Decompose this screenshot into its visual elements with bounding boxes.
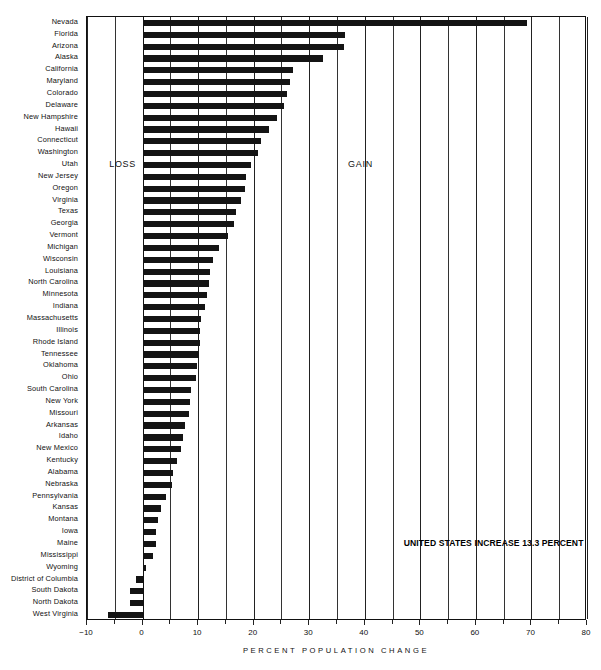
y-label-district-of-columbia: District of Columbia (11, 575, 78, 582)
y-label-ohio: Ohio (62, 373, 78, 380)
y-label-missouri: Missouri (49, 409, 78, 416)
x-tick-minor-5 (169, 620, 170, 624)
annotation-loss: LOSS (109, 159, 136, 169)
y-axis-state-labels: NevadaFloridaArizonaAlaskaCaliforniaMary… (0, 16, 82, 620)
y-label-connecticut: Connecticut (37, 136, 78, 143)
y-label-virginia: Virginia (52, 196, 78, 203)
y-label-north-dakota: North Dakota (33, 598, 78, 605)
x-tick-minor-35 (336, 620, 337, 624)
x-tick-label-0: 0 (139, 628, 143, 637)
y-label-pennsylvania: Pennsylvania (32, 492, 78, 499)
y-label-new-york: New York (46, 397, 78, 404)
x-tick-label-20: 20 (248, 628, 257, 637)
y-label-wisconsin: Wisconsin (43, 255, 78, 262)
y-label-south-carolina: South Carolina (27, 385, 78, 392)
y-label-new-mexico: New Mexico (36, 444, 78, 451)
y-label-idaho: Idaho (59, 432, 78, 439)
annotations: LOSSGAINUNITED STATES INCREASE 13.3 PERC… (87, 17, 585, 619)
y-label-arizona: Arizona (52, 42, 78, 49)
y-label-louisiana: Louisiana (45, 267, 78, 274)
y-label-nebraska: Nebraska (45, 480, 78, 487)
y-label-colorado: Colorado (47, 89, 78, 96)
y-label-rhode-island: Rhode Island (33, 338, 78, 345)
y-label-arkansas: Arkansas (46, 421, 78, 428)
y-label-delaware: Delaware (46, 101, 78, 108)
y-label-new-hampshire: New Hampshire (23, 113, 78, 120)
x-tick-60 (475, 620, 476, 625)
x-tick-label-80: 80 (582, 628, 591, 637)
annotation-gain: GAIN (348, 159, 373, 169)
y-label-california: California (45, 65, 78, 72)
y-label-texas: Texas (58, 207, 78, 214)
x-tick-label-40: 40 (359, 628, 368, 637)
gridline-80 (587, 17, 588, 619)
y-label-minnesota: Minnesota (43, 290, 78, 297)
y-label-iowa: Iowa (62, 527, 78, 534)
x-tick-50 (419, 620, 420, 625)
y-label-utah: Utah (62, 160, 78, 167)
x-tick-40 (364, 620, 365, 625)
y-label-kentucky: Kentucky (46, 456, 78, 463)
x-tick-minor-55 (447, 620, 448, 624)
x-tick-0 (142, 620, 143, 625)
y-label-georgia: Georgia (51, 219, 78, 226)
y-label-south-dakota: South Dakota (31, 586, 78, 593)
x-tick-30 (308, 620, 309, 625)
x-tick-label-60: 60 (470, 628, 479, 637)
y-label-west-virginia: West Virginia (33, 610, 78, 617)
x-tick-minor-15 (225, 620, 226, 624)
plot-area: LOSSGAINUNITED STATES INCREASE 13.3 PERC… (86, 16, 586, 620)
y-label-maine: Maine (57, 539, 78, 546)
x-tick-minor-65 (503, 620, 504, 624)
x-tick-minor-25 (280, 620, 281, 624)
x-axis: PERCENT POPULATION CHANGE −1001020304050… (86, 620, 586, 666)
x-tick-70 (530, 620, 531, 625)
x-tick-label--10: −10 (79, 628, 93, 637)
x-tick-label-50: 50 (415, 628, 424, 637)
y-label-north-carolina: North Carolina (28, 278, 78, 285)
x-tick-label-70: 70 (526, 628, 535, 637)
x-axis-title: PERCENT POPULATION CHANGE (86, 646, 586, 655)
y-label-montana: Montana (48, 515, 78, 522)
y-label-alaska: Alaska (55, 53, 78, 60)
y-label-massachusetts: Massachusetts (27, 314, 78, 321)
y-label-florida: Florida (54, 30, 78, 37)
y-label-alabama: Alabama (48, 468, 78, 475)
y-label-hawaii: Hawaii (55, 125, 78, 132)
y-label-oregon: Oregon (52, 184, 78, 191)
annotation-united: UNITED STATES INCREASE 13.3 PERCENT (404, 538, 584, 548)
y-label-washington: Washington (38, 148, 78, 155)
y-label-nevada: Nevada (52, 18, 78, 25)
y-label-michigan: Michigan (47, 243, 78, 250)
y-label-wyoming: Wyoming (46, 563, 78, 570)
y-label-maryland: Maryland (46, 77, 78, 84)
x-tick-minor--5 (114, 620, 115, 624)
x-tick-10 (197, 620, 198, 625)
y-label-vermont: Vermont (49, 231, 78, 238)
x-tick-label-10: 10 (193, 628, 202, 637)
y-label-illinois: Illinois (56, 326, 78, 333)
x-tick-20 (253, 620, 254, 625)
population-change-chart: NevadaFloridaArizonaAlaskaCaliforniaMary… (0, 0, 601, 670)
x-tick-label-30: 30 (304, 628, 313, 637)
y-label-kansas: Kansas (52, 503, 78, 510)
x-tick--10 (86, 620, 87, 625)
y-label-new-jersey: New Jersey (38, 172, 78, 179)
y-label-tennessee: Tennessee (41, 350, 78, 357)
y-label-indiana: Indiana (53, 302, 78, 309)
x-tick-minor-45 (392, 620, 393, 624)
y-label-oklahoma: Oklahoma (43, 361, 78, 368)
y-label-mississippi: Mississippi (41, 551, 78, 558)
x-tick-80 (586, 620, 587, 625)
x-tick-minor-75 (558, 620, 559, 624)
